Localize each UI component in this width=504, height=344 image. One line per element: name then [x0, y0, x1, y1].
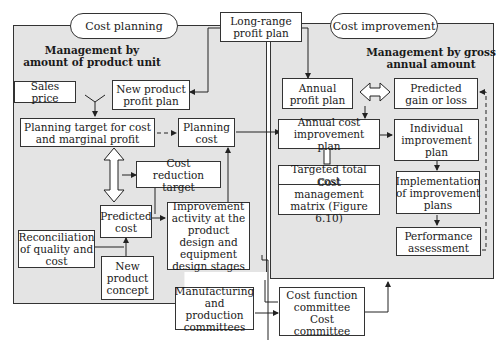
planning-target-box: Planning target for cost and marginal pr…: [20, 118, 155, 147]
predicted-gain-loss-box: Predicted gain or loss: [394, 78, 478, 109]
predicted-cost-box: Predicted cost: [100, 205, 152, 238]
cost-function-committee: Cost function committee: [283, 289, 361, 313]
improvement-activity-box: Improvement activity at the product desi…: [167, 202, 250, 270]
cost-reduction-target-box: Cost reduction target: [136, 161, 221, 188]
manufacturing-committees-box: Manufacturing and production committees: [175, 287, 254, 330]
new-product-concept-box: New product concept: [101, 256, 154, 300]
annual-profit-plan-box: Annual profit plan: [282, 78, 353, 109]
left-panel-heading: Management by amount of product unit: [22, 44, 162, 68]
planning-cost-box: Planning cost: [178, 118, 235, 147]
cost-management-matrix-box: Cost management matrix (Figure 6.10): [278, 184, 380, 215]
cost-planning-title: Cost planning: [70, 13, 178, 39]
long-range-profit-plan: Long-range profit plan: [220, 12, 302, 42]
reconciliation-box: Reconciliation of quality and cost: [18, 230, 95, 268]
sales-price-box: Sales price: [14, 81, 76, 103]
cost-committee: Cost committee: [283, 313, 361, 337]
individual-improvement-plan-box: Individual improvement plan: [394, 119, 479, 161]
cost-improvement-title: Cost improvement: [330, 13, 438, 39]
annual-cost-improvement-plan-box: Annual cost improvement plan: [278, 119, 380, 149]
new-product-profit-plan-box: New product profit plan: [112, 80, 190, 110]
right-panel-heading: Management by gross annual amount: [366, 46, 496, 70]
committee-box: Cost function committee Cost committee: [279, 287, 365, 336]
performance-assessment-box: Performance assessment: [396, 227, 481, 256]
implementation-box: Implementation of improvement plans: [396, 171, 480, 214]
